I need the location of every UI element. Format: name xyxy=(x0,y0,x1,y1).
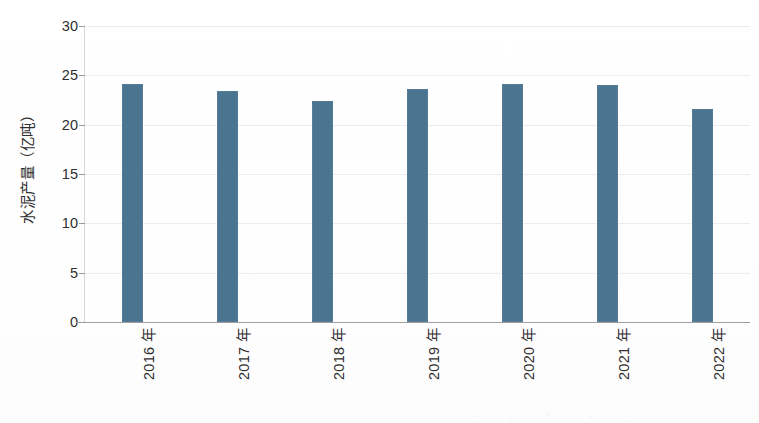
x-axis-tick-label-text: 2019 年 xyxy=(422,328,443,380)
x-axis-tick-label: 2020 年 xyxy=(503,326,523,406)
x-axis-tick-label-text: 2017 年 xyxy=(232,328,253,380)
bar xyxy=(312,101,333,322)
x-axis-tick-label-text: 2018 年 xyxy=(327,328,348,380)
y-axis-tick-label: 10 xyxy=(38,216,78,231)
x-axis-tick-label-text: 2020 年 xyxy=(517,328,538,380)
x-axis-line xyxy=(76,322,750,323)
y-axis-tick-label: 15 xyxy=(38,167,78,182)
y-axis-tick-label: 25 xyxy=(38,68,78,83)
x-axis-tick-label: 2022 年 xyxy=(693,326,713,406)
y-axis-title: 水泥产量（亿吨） xyxy=(14,0,38,330)
y-axis-tick-labels: 302520151050 xyxy=(38,0,78,423)
x-axis-tick-label: 2018 年 xyxy=(313,326,333,406)
y-axis-tick-label: 30 xyxy=(38,19,78,34)
bar xyxy=(502,84,523,322)
bars-layer xyxy=(85,26,750,322)
y-axis-tickmark xyxy=(79,322,85,323)
bar-chart: 水泥产量（亿吨） 302520151050 2016 年2017 年2018 年… xyxy=(0,0,759,423)
bar xyxy=(217,91,238,322)
x-axis-tick-label-text: 2021 年 xyxy=(612,328,633,380)
bar xyxy=(122,84,143,322)
x-axis-tick-labels: 2016 年2017 年2018 年2019 年2020 年2021 年2022… xyxy=(85,326,750,406)
x-axis-tick-label-text: 2022 年 xyxy=(707,328,728,380)
x-axis-tick-label: 2016 年 xyxy=(123,326,143,406)
bar xyxy=(597,85,618,322)
scan-artifact xyxy=(470,411,700,421)
plot-area xyxy=(85,26,750,322)
y-axis-tick-label: 5 xyxy=(38,265,78,280)
y-axis-tick-label: 0 xyxy=(38,315,78,330)
x-axis-tick-label: 2021 年 xyxy=(598,326,618,406)
x-axis-tick-label: 2019 年 xyxy=(408,326,428,406)
x-axis-tick-label: 2017 年 xyxy=(218,326,238,406)
y-axis-tick-label: 20 xyxy=(38,117,78,132)
bar xyxy=(407,89,428,322)
y-axis-title-text: 水泥产量（亿吨） xyxy=(16,107,37,223)
x-axis-tick-label-text: 2016 年 xyxy=(137,328,158,380)
bar xyxy=(692,109,713,322)
